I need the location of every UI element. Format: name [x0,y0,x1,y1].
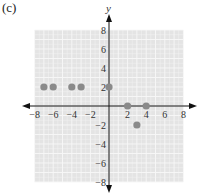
data-point [133,121,140,128]
y-tick-label: −4 [95,139,106,150]
y-axis-up-arrow-icon [106,14,112,22]
x-tick-label: −6 [48,109,59,120]
data-point [105,83,112,90]
data-point [143,102,150,109]
y-tick-label: 2 [101,82,106,93]
data-point [78,83,85,90]
x-tick-label: 4 [144,109,149,120]
data-point [68,83,75,90]
x-tick-label: 2 [125,109,130,120]
x-tick-label: 8 [181,109,186,120]
x-tick-label: −8 [29,109,40,120]
y-tick-label: −2 [95,120,106,131]
x-tick-label: −4 [66,109,77,120]
x-axis-right-arrow-icon [189,103,197,109]
y-tick-label: −8 [95,177,106,188]
y-tick-label: 4 [101,63,106,74]
y-axis-down-arrow-icon [106,185,112,193]
y-tick-label: −6 [95,158,106,169]
x-tick-label: 6 [162,109,167,120]
scatter-plot: −8−6−4−224688642−2−4−6−8 [0,0,201,194]
data-point [50,83,57,90]
data-point [40,83,47,90]
data-point [124,102,131,109]
y-tick-label: 8 [101,25,106,36]
x-tick-label: −2 [85,109,96,120]
y-tick-label: 6 [101,44,106,55]
